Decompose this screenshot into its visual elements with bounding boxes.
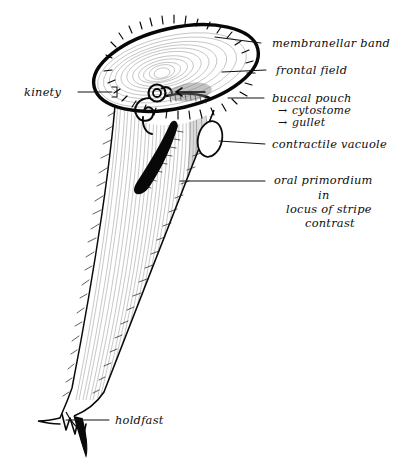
label-contractile-vacuole: contractile vacuole <box>272 137 387 151</box>
label-buccal-pouch: buccal pouch <box>272 91 352 105</box>
arrow-gullet-icon: → <box>278 116 287 129</box>
label-contrast: contrast <box>305 216 355 230</box>
leader-contractile-vacuole <box>219 141 265 144</box>
label-holdfast: holdfast <box>115 413 164 427</box>
label-frontal-field: frontal field <box>275 63 347 77</box>
holdfast <box>38 412 87 456</box>
ciliate-anatomy-figure: membranellar band frontal field buccal p… <box>0 0 420 473</box>
label-oral-primordium: oral primordium <box>274 173 373 187</box>
label-oral-primordium-in: in <box>318 188 329 202</box>
label-membranellar-band: membranellar band <box>272 36 390 50</box>
label-locus-of-stripe: locus of stripe <box>286 202 372 216</box>
label-gullet: gullet <box>292 116 326 129</box>
label-kinety: kinety <box>24 85 61 99</box>
